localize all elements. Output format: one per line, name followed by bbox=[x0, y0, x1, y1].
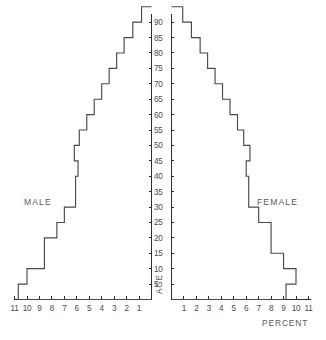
age-axis-group: 90858075706560555045403530252015105 bbox=[149, 14, 174, 300]
percent-tick-label: 10 bbox=[292, 304, 301, 313]
percent-tick-label: 11 bbox=[10, 304, 19, 313]
female-series-label: FEMALE bbox=[257, 197, 298, 207]
age-tick-label: 20 bbox=[154, 234, 163, 243]
age-tick-label: 25 bbox=[154, 218, 163, 227]
age-tick-label: 15 bbox=[154, 249, 163, 258]
male-series-label: MALE bbox=[24, 197, 52, 207]
age-tick-label: 75 bbox=[154, 64, 163, 73]
age-axis-title: AGE bbox=[154, 274, 164, 294]
age-tick-label: 80 bbox=[154, 49, 163, 58]
age-tick-label: 90 bbox=[154, 18, 163, 27]
population-pyramid-chart: 90858075706560555045403530252015105 1110… bbox=[0, 0, 326, 340]
percent-tick-label: 5 bbox=[87, 304, 92, 313]
percent-tick-label: 3 bbox=[207, 304, 212, 313]
age-tick-label: 30 bbox=[154, 203, 163, 212]
percent-tick-label: 9 bbox=[37, 304, 42, 313]
percent-tick-label: 4 bbox=[219, 304, 224, 313]
pyramid-plot-area: 90858075706560555045403530252015105 1110… bbox=[0, 0, 326, 340]
female-population-outline bbox=[172, 7, 297, 300]
percent-tick-label: 8 bbox=[269, 304, 274, 313]
percent-tick-label: 10 bbox=[23, 304, 32, 313]
percent-tick-label: 7 bbox=[62, 304, 67, 313]
male-population-outline bbox=[18, 7, 151, 300]
age-tick-label: 65 bbox=[154, 95, 163, 104]
percent-tick-label: 6 bbox=[244, 304, 249, 313]
percent-tick-label: 2 bbox=[194, 304, 199, 313]
percent-tick-label: 1 bbox=[182, 304, 187, 313]
percent-tick-label: 6 bbox=[75, 304, 80, 313]
percent-tick-label: 7 bbox=[256, 304, 261, 313]
age-tick-label: 70 bbox=[154, 80, 163, 89]
age-tick-label: 40 bbox=[154, 172, 163, 181]
percent-axis-group: 1110987654321 1234567891011 bbox=[10, 296, 313, 313]
age-tick-label: 55 bbox=[154, 126, 163, 135]
age-tick-labels: 90858075706560555045403530252015105 bbox=[154, 18, 163, 289]
age-tick-label: 85 bbox=[154, 34, 163, 43]
age-tick-marks bbox=[149, 22, 174, 284]
percent-tick-label: 11 bbox=[304, 304, 313, 313]
age-tick-label: 35 bbox=[154, 188, 163, 197]
age-tick-label: 50 bbox=[154, 141, 163, 150]
age-tick-label: 45 bbox=[154, 157, 163, 166]
percent-tick-label: 9 bbox=[281, 304, 286, 313]
percent-tick-label: 1 bbox=[137, 304, 142, 313]
percent-tick-label: 5 bbox=[232, 304, 237, 313]
age-tick-label: 60 bbox=[154, 111, 163, 120]
age-tick-label: 10 bbox=[154, 265, 163, 274]
percent-tick-labels-right: 1234567891011 bbox=[182, 304, 313, 313]
percent-tick-label: 8 bbox=[50, 304, 55, 313]
percent-axis-title: PERCENT bbox=[262, 318, 308, 328]
percent-tick-label: 4 bbox=[100, 304, 105, 313]
percent-tick-label: 3 bbox=[112, 304, 117, 313]
percent-tick-label: 2 bbox=[124, 304, 129, 313]
percent-tick-labels-left: 1110987654321 bbox=[10, 304, 141, 313]
